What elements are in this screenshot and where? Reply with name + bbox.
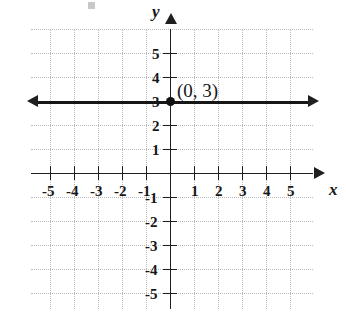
- y-tick-label: -1: [145, 191, 158, 206]
- x-tick-label: 3: [239, 184, 247, 199]
- y-tick: [163, 197, 177, 198]
- x-tick: [50, 166, 51, 180]
- scan-artifact-speck: [88, 2, 95, 9]
- y-tick-label: -3: [145, 239, 158, 254]
- x-tick: [98, 166, 99, 180]
- plotted-line-arrow-right-icon: [308, 95, 319, 107]
- x-tick-label: 2: [215, 184, 223, 199]
- y-tick-label: 5: [152, 47, 160, 62]
- y-tick-label: 4: [152, 71, 160, 86]
- y-axis-line: [170, 29, 171, 309]
- y-tick: [163, 221, 177, 222]
- x-tick: [194, 166, 195, 180]
- y-tick: [163, 53, 177, 54]
- y-tick: [163, 149, 177, 150]
- y-tick: [163, 269, 177, 270]
- y-tick-label: -5: [145, 287, 158, 302]
- x-tick: [290, 166, 291, 180]
- x-tick-label: 4: [263, 184, 271, 199]
- x-tick-label: -2: [114, 184, 127, 199]
- coordinate-plane: -5 -4 -3 -2 -1 1 2 3 4 5 5 4 3 2 1 -1 -2…: [31, 29, 313, 309]
- plotted-line-arrow-left-icon: [27, 95, 38, 107]
- x-tick: [122, 166, 123, 180]
- x-tick-label: 1: [191, 184, 199, 199]
- plotted-point-marker: [166, 97, 175, 106]
- y-tick: [163, 125, 177, 126]
- y-tick-label: 1: [152, 143, 160, 158]
- y-tick-label: -4: [145, 263, 158, 278]
- point-annotation-label: (0, 3): [177, 81, 218, 100]
- y-tick: [163, 293, 177, 294]
- x-tick-label: 5: [287, 184, 295, 199]
- x-tick-label: -4: [66, 184, 79, 199]
- grid-line-horizontal: [31, 29, 313, 30]
- y-tick-label: -2: [145, 215, 158, 230]
- x-axis-label: x: [329, 181, 338, 198]
- y-tick: [163, 77, 177, 78]
- y-tick-label: 2: [152, 119, 160, 134]
- x-tick: [218, 166, 219, 180]
- graph-figure: -5 -4 -3 -2 -1 1 2 3 4 5 5 4 3 2 1 -1 -2…: [0, 0, 346, 327]
- y-axis-label: y: [152, 3, 160, 20]
- x-axis-arrow-right-icon: [314, 167, 325, 179]
- x-tick: [242, 166, 243, 180]
- x-tick-label: -3: [90, 184, 103, 199]
- y-axis-arrow-up-icon: [165, 13, 177, 24]
- x-tick: [74, 166, 75, 180]
- x-tick: [146, 166, 147, 180]
- x-tick-label: -5: [42, 184, 55, 199]
- y-tick: [163, 245, 177, 246]
- y-tick-label: 3: [152, 95, 160, 110]
- x-tick: [266, 166, 267, 180]
